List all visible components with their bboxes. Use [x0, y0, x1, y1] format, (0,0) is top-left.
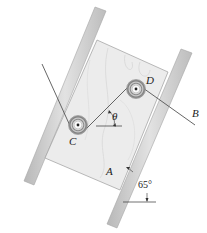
label-65-degrees: 65° — [138, 179, 152, 190]
label-a: A — [105, 165, 113, 177]
label-d: D — [145, 74, 154, 86]
label-b: B — [192, 107, 199, 119]
label-c: C — [69, 135, 77, 147]
pulley-c — [69, 116, 88, 135]
label-theta: θ — [112, 110, 118, 122]
pulley-d — [127, 80, 146, 99]
pulley-block-diagram: D B C A θ 65° — [0, 0, 207, 233]
